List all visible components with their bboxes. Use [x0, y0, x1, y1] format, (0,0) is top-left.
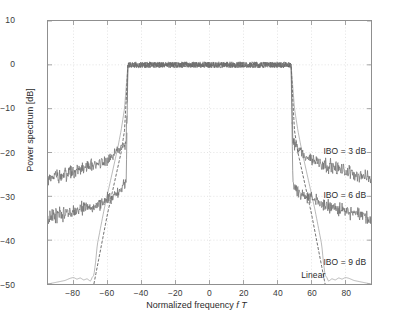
x-tick-label: −20: [168, 288, 183, 298]
y-tick-label: −50: [0, 280, 15, 290]
annotation-label: IBO = 9 dB: [323, 257, 366, 267]
x-tick-label: −40: [134, 288, 149, 298]
x-tick-label: 80: [342, 288, 352, 298]
y-axis-title: Power spectrum [dB]: [25, 40, 35, 220]
x-axis-title-plain: Normalized frequency: [146, 300, 234, 310]
y-tick-label: −20: [0, 148, 15, 158]
y-tick-label: 10: [5, 15, 15, 25]
x-tick-label: 0: [207, 288, 212, 298]
plot-area: IBO = 3 dBIBO = 6 dBIBO = 9 dBLinear: [47, 20, 372, 285]
x-axis-title: Normalized frequency f T: [0, 300, 393, 310]
y-tick-label: −40: [0, 236, 15, 246]
annotation-label: IBO = 6 dB: [323, 190, 366, 200]
annotation-label: IBO = 3 dB: [323, 146, 366, 156]
y-tick-label: −10: [0, 103, 15, 113]
x-tick-label: −80: [65, 288, 80, 298]
annotation-label: Linear: [301, 270, 325, 280]
x-tick-label: −60: [100, 288, 115, 298]
y-tick-label: −30: [0, 192, 15, 202]
y-tick-label: 0: [10, 59, 15, 69]
x-tick-label: 20: [239, 288, 249, 298]
x-tick-label: 60: [307, 288, 317, 298]
x-tick-label: 40: [273, 288, 283, 298]
x-axis-title-symbol: f T: [236, 300, 247, 310]
power-spectrum-figure: 100−10−20−30−40−50 Power spectrum [dB] I…: [0, 0, 393, 320]
